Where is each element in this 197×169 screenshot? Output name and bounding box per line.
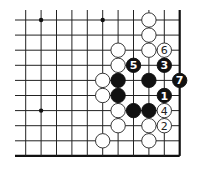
white-stone-icon [96,73,110,87]
star-point-icon [39,108,43,112]
black-stone-icon [111,73,125,87]
white-stone [111,43,125,57]
white-stone-move-2: 2 [157,119,171,133]
star-point-icon [39,18,43,22]
black-stone [142,73,156,87]
black-stone-move-3: 3 [157,58,171,72]
move-number: 7 [176,74,184,87]
white-stone-icon [96,134,110,148]
white-stone-move-6: 6 [157,43,171,57]
white-stone [142,119,156,133]
white-stone-icon [142,119,156,133]
white-stone-icon [111,119,125,133]
black-stone [111,73,125,87]
black-stone-move-1: 1 [157,88,171,102]
white-stone [96,73,110,87]
white-stone-icon [111,58,125,72]
black-stone-move-7: 7 [173,73,187,87]
black-stone-icon [142,103,156,117]
black-stone-icon [142,73,156,87]
black-stone-icon [126,103,140,117]
star-point-icon [101,18,105,22]
white-stone [142,134,156,148]
white-stone [142,28,156,42]
white-stone-icon [111,43,125,57]
white-stone [96,134,110,148]
white-stone [111,103,125,117]
white-stone [111,119,125,133]
black-stone [111,88,125,102]
white-stone-icon [142,28,156,42]
black-stone [142,103,156,117]
white-stone [111,58,125,72]
white-stone-move-4: 4 [157,103,171,117]
move-number: 2 [161,120,168,133]
white-stone-icon [142,13,156,27]
move-number: 1 [160,90,168,103]
move-number: 5 [130,59,138,72]
white-stone-icon [142,134,156,148]
go-board-diagram: 6537142 [0,0,197,169]
white-stone-icon [96,88,110,102]
black-stone-move-5: 5 [126,58,140,72]
white-stone-icon [142,43,156,57]
move-number: 3 [160,59,168,72]
white-stone [96,88,110,102]
white-stone-icon [111,103,125,117]
black-stone-icon [111,88,125,102]
black-stone [126,103,140,117]
move-number: 6 [161,44,168,57]
white-stone [142,13,156,27]
move-number: 4 [161,105,168,118]
white-stone [142,43,156,57]
